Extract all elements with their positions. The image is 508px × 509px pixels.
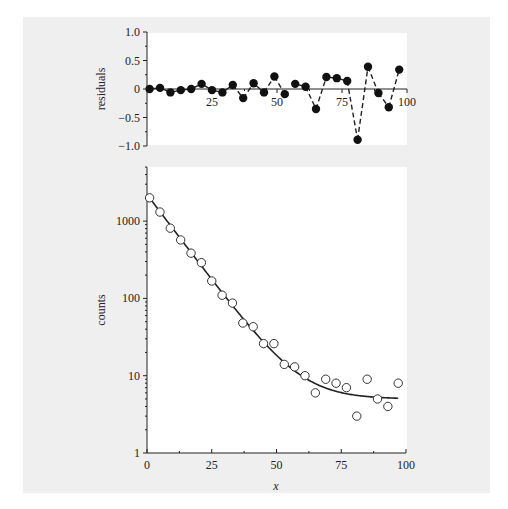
- residual-point: [301, 83, 309, 91]
- residual-point: [197, 80, 205, 88]
- count-point: [249, 323, 257, 331]
- residual-point: [177, 86, 185, 94]
- count-point: [353, 412, 361, 420]
- count-point: [290, 363, 298, 371]
- count-point: [301, 372, 309, 380]
- residual-point: [249, 79, 257, 87]
- residual-point: [166, 88, 174, 96]
- count-point: [197, 258, 205, 266]
- counts-x-tick-label: 25: [206, 458, 218, 472]
- residual-point: [270, 72, 278, 80]
- count-point: [228, 299, 236, 307]
- residual-point: [156, 84, 164, 92]
- counts-x-tick-label: 0: [144, 458, 150, 472]
- count-point: [332, 379, 340, 387]
- residuals-x-tick-label: 25: [206, 95, 218, 109]
- counts-plot-area: [147, 167, 407, 453]
- residual-point: [322, 73, 330, 81]
- residuals-y-tick-label: −1.0: [118, 139, 140, 153]
- residual-point: [291, 80, 299, 88]
- count-point: [363, 375, 371, 383]
- counts-x-tick-label: 100: [397, 458, 415, 472]
- residuals-y-axis-label: residuals: [94, 67, 108, 110]
- counts-y-tick-label: 1000: [116, 214, 140, 228]
- count-point: [270, 339, 278, 347]
- residual-point: [353, 136, 361, 144]
- residual-point: [229, 81, 237, 89]
- residual-point: [364, 63, 372, 71]
- count-point: [311, 389, 319, 397]
- residuals-y-tick-label: −0.5: [118, 111, 140, 125]
- counts-y-tick-label: 10: [128, 369, 140, 383]
- count-point: [259, 339, 267, 347]
- counts-x-tick-label: 50: [271, 458, 283, 472]
- counts-y-tick-label: 100: [122, 291, 140, 305]
- count-point: [342, 383, 350, 391]
- residual-point: [395, 65, 403, 73]
- count-point: [166, 224, 174, 232]
- residuals-x-tick-label: 50: [271, 95, 283, 109]
- chart-svg: 1.00.50−0.5−1.0255075100 residuals 11010…: [0, 0, 508, 509]
- count-point: [322, 375, 330, 383]
- counts-y-tick-label: 1: [134, 446, 140, 460]
- residual-point: [260, 88, 268, 96]
- residual-point: [145, 85, 153, 93]
- count-point: [218, 291, 226, 299]
- residual-point: [187, 85, 195, 93]
- count-point: [280, 360, 288, 368]
- count-point: [176, 236, 184, 244]
- counts-y-axis-label: counts: [94, 294, 108, 326]
- residuals-y-tick-label: 1.0: [125, 25, 140, 39]
- residual-point: [239, 94, 247, 102]
- count-point: [145, 194, 153, 202]
- count-point: [394, 379, 402, 387]
- count-point: [384, 402, 392, 410]
- count-point: [208, 277, 216, 285]
- residual-point: [312, 105, 320, 113]
- residual-point: [374, 89, 382, 97]
- counts-x-axis-label: x: [272, 479, 279, 493]
- residual-point: [281, 90, 289, 98]
- residual-point: [333, 74, 341, 82]
- counts-x-tick-label: 75: [335, 458, 347, 472]
- count-point: [187, 249, 195, 257]
- count-point: [239, 319, 247, 327]
- residual-point: [208, 86, 216, 94]
- residual-point: [385, 103, 393, 111]
- residual-point: [343, 77, 351, 85]
- count-point: [373, 395, 381, 403]
- residuals-y-tick-label: 0.5: [125, 54, 140, 68]
- residuals-x-tick-label: 100: [398, 95, 416, 109]
- residuals-x-tick-label: 75: [336, 95, 348, 109]
- residuals-y-tick-label: 0: [134, 82, 140, 96]
- residual-point: [218, 88, 226, 96]
- count-point: [156, 208, 164, 216]
